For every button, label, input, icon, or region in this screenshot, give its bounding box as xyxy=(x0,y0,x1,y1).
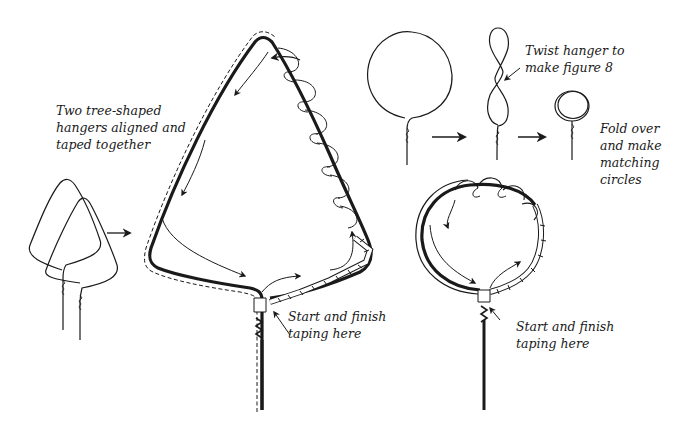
circle-frame-arrows xyxy=(430,200,520,320)
arrow-figure8-twist xyxy=(505,68,520,80)
round-hanger xyxy=(368,32,452,165)
label-fold-over: Fold over and make matching circles xyxy=(600,120,662,188)
figure-eight-hanger xyxy=(488,28,509,160)
taped-circle-frame xyxy=(416,178,546,410)
label-twist-hanger: Twist hanger to make figure 8 xyxy=(525,42,624,76)
folded-circle xyxy=(555,91,589,160)
label-start-finish-tree: Start and finish taping here xyxy=(288,308,386,342)
label-start-finish-circle: Start and finish taping here xyxy=(516,318,614,352)
two-tree-hangers xyxy=(29,179,117,340)
label-two-tree-hangers: Two tree-shaped hangers aligned and tape… xyxy=(56,102,186,153)
taped-tree-frame xyxy=(144,32,371,412)
